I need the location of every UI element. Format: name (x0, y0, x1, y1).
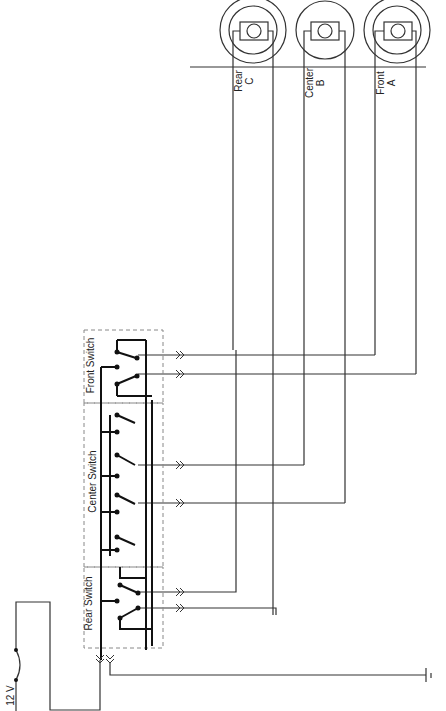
lamp-front-a (364, 0, 430, 374)
lamp-letter: C (244, 77, 255, 84)
lamp-label-rear: Rear C (233, 61, 255, 101)
wiring-diagram: Rear C Center B Front A Front Switch Cen… (0, 0, 446, 711)
lamp-name: Center (304, 68, 315, 98)
lamp-label-center: Center B (304, 63, 326, 103)
diagram-canvas (0, 0, 446, 711)
lamp-label-front: Front A (375, 63, 397, 103)
center-switch-label: Center Switch (87, 442, 98, 522)
rear-switch-label: Rear Switch (83, 574, 94, 634)
front-switch-label: Front Switch (85, 331, 96, 401)
voltage-label: 12 V (5, 684, 16, 708)
lamp-name: Front (375, 71, 386, 94)
lamp-letter: B (315, 80, 326, 87)
lamp-letter: A (386, 80, 397, 87)
lamp-name: Rear (233, 70, 244, 92)
